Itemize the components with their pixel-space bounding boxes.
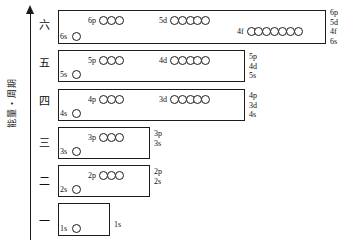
shell-right-labels: 1s — [114, 220, 121, 230]
s-orbital-group: 5s — [60, 70, 81, 79]
orbital-label: 4f — [330, 27, 338, 37]
orbital-circle-row — [99, 95, 124, 104]
period-numeral: 四 — [36, 96, 52, 107]
orbital-circle — [115, 133, 124, 142]
orbital-label: 5p — [249, 52, 257, 62]
orbital-group: 3p — [88, 133, 124, 142]
orbital-circle-row — [72, 109, 81, 118]
orbital-tag: 4d — [159, 57, 167, 65]
energy-axis-line — [30, 12, 31, 240]
orbital-label: 3s — [154, 139, 162, 149]
orbital-tag: 6s — [60, 33, 67, 41]
orbital-circle-row — [170, 16, 210, 25]
orbital-circle-row — [99, 16, 124, 25]
orbital-label: 4s — [249, 110, 257, 120]
orbital-label: 2s — [154, 177, 162, 187]
orbital-circle-row — [99, 56, 124, 65]
orbital-circle-row — [99, 171, 124, 180]
shell-right-labels: 3p3s — [154, 129, 162, 148]
orbital-circle-row — [72, 147, 81, 156]
orbital-label: 4p — [249, 91, 257, 101]
orbital-group: 5d — [159, 16, 210, 25]
orbital-circle — [294, 27, 303, 36]
orbital-circle — [115, 95, 124, 104]
orbital-label: 6s — [330, 37, 338, 47]
orbital-label: 1s — [114, 220, 121, 230]
orbital-circle — [72, 32, 81, 41]
period-numeral: 一 — [36, 216, 52, 227]
orbital-group: 3d — [159, 95, 210, 104]
s-orbital-group: 2s — [60, 185, 81, 194]
orbital-circle-row — [170, 56, 210, 65]
orbital-circle — [72, 185, 81, 194]
shell-right-labels: 2p2s — [154, 167, 162, 186]
shell-right-labels: 4p3d4s — [249, 91, 257, 120]
orbital-tag: 3p — [88, 134, 96, 142]
orbital-circle-row — [170, 95, 210, 104]
orbital-circle — [201, 56, 210, 65]
orbital-group: 4p — [88, 95, 124, 104]
orbital-circle-row — [72, 70, 81, 79]
orbital-circle — [115, 56, 124, 65]
orbital-group: 2p — [88, 171, 124, 180]
orbital-group: 4f — [237, 27, 303, 36]
orbital-tag: 4s — [60, 110, 67, 118]
period-numeral: 五 — [36, 58, 52, 69]
orbital-circle — [201, 95, 210, 104]
orbital-label: 6p — [330, 8, 338, 18]
period-numeral: 二 — [36, 176, 52, 187]
orbital-circle — [72, 70, 81, 79]
shell-box — [58, 50, 245, 82]
orbital-circle-row — [72, 32, 81, 41]
orbital-circle — [201, 16, 210, 25]
orbital-tag: 4f — [237, 28, 244, 36]
period-numeral: 三 — [36, 138, 52, 149]
orbital-label: 4d — [249, 62, 257, 72]
orbital-circle — [115, 171, 124, 180]
orbital-label: 3d — [249, 101, 257, 111]
s-orbital-group: 1s — [60, 224, 81, 233]
orbital-tag: 5p — [88, 57, 96, 65]
orbital-tag: 2p — [88, 172, 96, 180]
s-orbital-group: 4s — [60, 109, 81, 118]
orbital-circle-row — [99, 133, 124, 142]
s-orbital-group: 6s — [60, 32, 81, 41]
orbital-tag: 1s — [60, 225, 67, 233]
orbital-group: 6p — [88, 16, 124, 25]
orbital-label: 3p — [154, 129, 162, 139]
shell-right-labels: 5p4d5s — [249, 52, 257, 81]
orbital-tag: 3d — [159, 96, 167, 104]
orbital-label: 5d — [330, 18, 338, 28]
orbital-circle-row — [72, 185, 81, 194]
period-numeral: 六 — [36, 20, 52, 31]
orbital-circle — [115, 16, 124, 25]
orbital-circle-row — [72, 224, 81, 233]
s-orbital-group: 3s — [60, 147, 81, 156]
orbital-tag: 5s — [60, 71, 67, 79]
orbital-energy-diagram: 能量・周期 六6s6p5d4f6p5d4f6s五5s5p4d5p4d5s四4s4… — [0, 0, 352, 248]
orbital-tag: 3s — [60, 148, 67, 156]
orbital-tag: 4p — [88, 96, 96, 104]
orbital-circle — [72, 109, 81, 118]
orbital-tag: 6p — [88, 17, 96, 25]
orbital-circle — [72, 147, 81, 156]
orbital-tag: 5d — [159, 17, 167, 25]
axis-label: 能量・周期 — [5, 66, 18, 140]
shell-box — [58, 89, 245, 121]
orbital-circle — [72, 224, 81, 233]
orbital-circle-row — [247, 27, 303, 36]
orbital-group: 4d — [159, 56, 210, 65]
orbital-label: 2p — [154, 167, 162, 177]
shell-right-labels: 6p5d4f6s — [330, 8, 338, 46]
orbital-tag: 2s — [60, 186, 67, 194]
orbital-group: 5p — [88, 56, 124, 65]
orbital-label: 5s — [249, 71, 257, 81]
